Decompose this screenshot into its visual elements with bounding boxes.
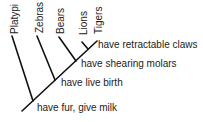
trait-live-birth: have live birth: [61, 78, 123, 88]
taxon-zebras: Zebras: [35, 2, 45, 33]
cladogram: Platypi Zebras Bears Lions Tigers have r…: [0, 0, 203, 122]
taxon-bears: Bears: [56, 8, 66, 34]
branch-zebras: [37, 36, 55, 80]
taxon-platypi: Platypi: [10, 4, 20, 34]
taxon-tigers: Tigers: [94, 7, 104, 34]
branch-platypi: [12, 36, 33, 101]
branch-lions: [82, 42, 88, 49]
trait-retractable-claws: have retractable claws: [98, 40, 198, 50]
branch-bears: [59, 37, 76, 61]
trait-fur-milk: have fur, give milk: [37, 103, 117, 113]
taxon-lions: Lions: [79, 11, 89, 35]
trait-shearing-molars: have shearing molars: [81, 59, 177, 69]
